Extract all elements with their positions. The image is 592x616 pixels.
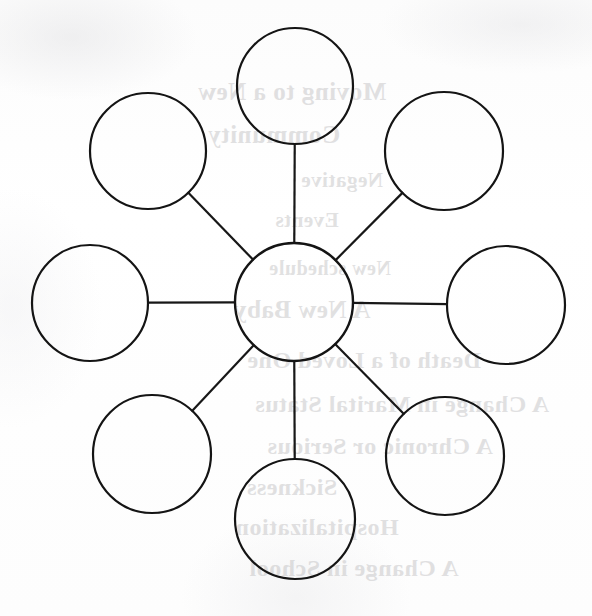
spoke-upper-left [188, 192, 254, 260]
nodes-group [32, 28, 565, 579]
node-bottom[interactable] [235, 459, 355, 579]
spoke-upper-right [335, 192, 403, 261]
node-top[interactable] [237, 28, 353, 144]
spoke-right [352, 303, 448, 304]
spoke-lower-left [192, 344, 255, 411]
node-left[interactable] [32, 245, 148, 361]
node-lower-right[interactable] [386, 397, 504, 515]
worksheet-page: Moving to a NewCommunityNegativeEventsNe… [0, 0, 592, 616]
node-upper-right[interactable] [385, 92, 503, 210]
node-upper-left[interactable] [90, 93, 206, 209]
spider-web-diagram [0, 0, 592, 616]
center-node[interactable] [235, 243, 353, 361]
node-right[interactable] [447, 246, 565, 364]
node-lower-left[interactable] [93, 395, 211, 513]
spoke-lower-right [335, 343, 405, 414]
